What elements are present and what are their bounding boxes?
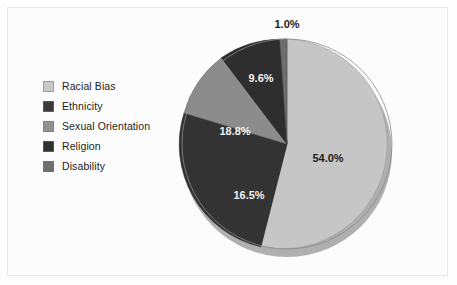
legend-label-racial-bias: Racial Bias [62, 81, 116, 92]
legend-swatch-sexual-orientation [43, 121, 54, 132]
data-label-ethnicity: 16.5% [233, 189, 264, 201]
pie-graphic: 54.0% 16.5% 18.8% 9.6% 1.0% [178, 34, 398, 259]
legend-label-religion: Religion [62, 141, 101, 152]
data-label-sexual-orientation: 18.8% [219, 125, 250, 137]
data-label-disability-outside: 1.0% [262, 18, 312, 30]
data-label-religion: 9.6% [248, 72, 273, 84]
legend-label-disability: Disability [62, 161, 105, 172]
legend-label-sexual-orientation: Sexual Orientation [62, 121, 150, 132]
legend-swatch-racial-bias [43, 81, 54, 92]
data-label-racial-bias: 54.0% [312, 152, 343, 164]
legend-swatch-ethnicity [43, 101, 54, 112]
pie-chart-plot-area: Racial Bias Ethnicity Sexual Orientation… [0, 0, 457, 285]
pie-svg: 54.0% 16.5% 18.8% 9.6% 1.0% [178, 34, 398, 259]
legend-swatch-disability [43, 161, 54, 172]
legend-label-ethnicity: Ethnicity [62, 101, 103, 112]
chart-screenshot: Racial Bias Ethnicity Sexual Orientation… [0, 0, 457, 285]
legend-swatch-religion [43, 141, 54, 152]
